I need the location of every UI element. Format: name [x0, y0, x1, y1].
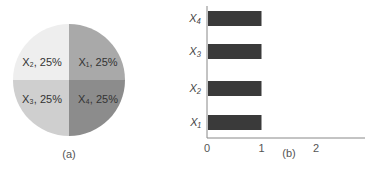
pie-chart: X₁, 25% X₂, 25% X₃, 25% X₄, 25% (a)	[13, 24, 125, 160]
y-tick-label: X₄	[188, 12, 201, 24]
bar-4	[208, 11, 262, 26]
bar-2	[208, 81, 262, 96]
figure: X₁, 25% X₂, 25% X₃, 25% X₄, 25% (a) X₁X₂…	[0, 0, 376, 172]
bar-1	[208, 115, 262, 130]
pie-slice-x4	[69, 80, 125, 136]
pie-caption: (a)	[62, 148, 75, 160]
x-tick-label: 0	[204, 142, 210, 154]
y-tick-label: X₂	[188, 82, 201, 94]
pie-slice-x3	[13, 80, 69, 136]
x-tick-label: 2	[313, 142, 319, 154]
pie-slice-x2	[13, 24, 69, 80]
bar-3	[208, 44, 262, 59]
x-tick-label: 1	[258, 142, 264, 154]
y-tick-label: X₃	[188, 45, 201, 57]
pie-label-x2: X₂, 25%	[22, 56, 62, 68]
pie-slice-x1	[69, 24, 125, 80]
pie-label-x3: X₃, 25%	[22, 93, 62, 105]
pie-label-x4: X₄, 25%	[78, 93, 118, 105]
bar-caption: (b)	[282, 147, 295, 159]
bar-chart: X₁X₂X₃X₄ 012 (b)	[188, 6, 365, 159]
y-tick-label: X₁	[189, 116, 201, 128]
pie-label-x1: X₁, 25%	[78, 56, 117, 68]
